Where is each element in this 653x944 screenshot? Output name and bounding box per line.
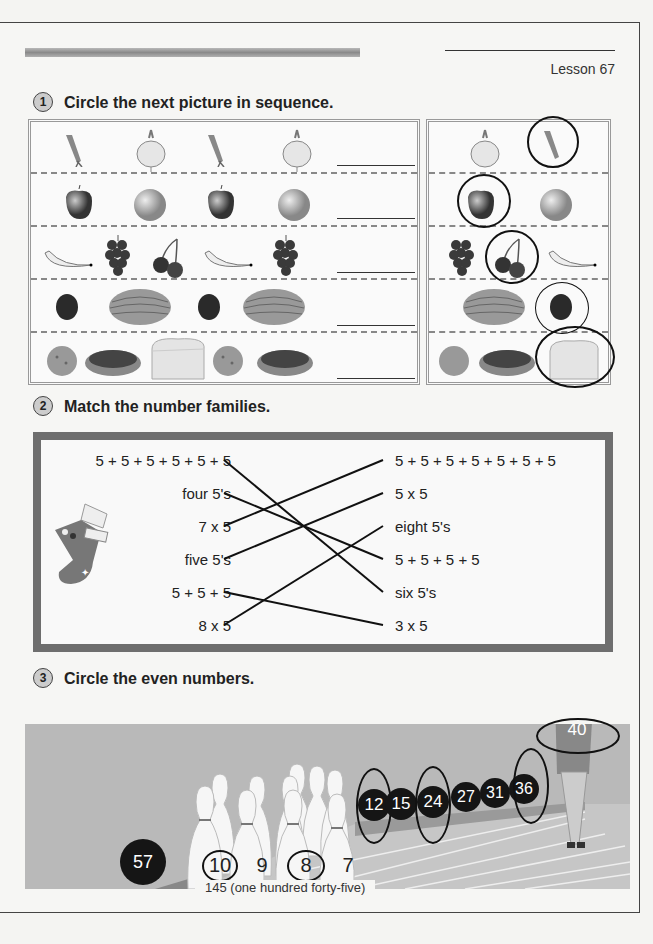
answer-line-3[interactable] [337, 272, 415, 273]
name-line [445, 50, 615, 51]
bowling-ball[interactable]: 27 [451, 782, 481, 812]
pin-number[interactable]: 7 [333, 854, 363, 877]
answer-line-5[interactable] [337, 378, 415, 379]
choices-box [426, 119, 611, 385]
banana-icon[interactable] [547, 247, 599, 275]
section-3-number: 3 [33, 668, 53, 688]
section-3-title: Circle the even numbers. [64, 670, 254, 688]
answer-circle [536, 718, 620, 754]
orange-icon[interactable] [537, 184, 575, 224]
apple-icon [203, 184, 239, 222]
answer-circle [202, 850, 238, 882]
stocking-icon: ✦ [51, 502, 111, 588]
plum-icon [53, 292, 81, 322]
bread-icon [147, 334, 209, 382]
cookie-icon [211, 344, 245, 378]
cookie-icon [45, 344, 79, 378]
grapes-icon [271, 232, 301, 282]
melon-icon [107, 287, 173, 327]
answer-line-2[interactable] [337, 218, 415, 219]
answer-circle [287, 850, 325, 882]
turnip-icon [131, 128, 171, 172]
section-2-number: 2 [33, 396, 53, 416]
orange-icon [131, 184, 169, 224]
orange-icon [275, 184, 313, 224]
donut-icon [255, 346, 315, 378]
carrot-icon [201, 132, 231, 168]
donut-icon [83, 346, 143, 378]
section-2-title: Match the number families. [64, 398, 270, 416]
pin-number[interactable]: 9 [247, 854, 277, 877]
turnip-icon[interactable] [465, 128, 505, 172]
answer-circle [535, 326, 615, 388]
turnip-icon [277, 128, 317, 172]
cookie-icon[interactable] [437, 344, 471, 378]
melon-icon[interactable] [461, 287, 527, 327]
answer-line-4[interactable] [337, 325, 415, 326]
match-lines [41, 440, 605, 644]
melon-icon [241, 287, 307, 327]
donut-icon[interactable] [477, 346, 537, 378]
answer-circle [415, 766, 451, 844]
page-number-label: 145 (one hundred forty-five) [195, 880, 375, 896]
answer-circle [457, 174, 511, 228]
lesson-label: Lesson 67 [550, 61, 615, 77]
answer-circle [485, 230, 539, 284]
section-1-title: Circle the next picture in sequence. [64, 94, 333, 112]
apple-icon [61, 184, 97, 222]
cherries-icon [149, 237, 189, 279]
section-1-number: 1 [33, 92, 53, 112]
grapes-icon [103, 232, 133, 282]
answer-line-1[interactable] [337, 165, 415, 166]
plum-icon [195, 292, 223, 322]
banana-icon [203, 247, 255, 275]
grapes-icon[interactable] [447, 232, 477, 282]
match-box: 5 + 5 + 5 + 5 + 5 + 5 four 5's 7 x 5 fiv… [33, 432, 613, 652]
carrot-icon [59, 132, 89, 168]
banana-icon [43, 247, 95, 275]
bowling-ball[interactable]: 15 [385, 788, 417, 820]
sequence-box [28, 119, 420, 385]
bowling-scene: 10 9 8 7 57 12 15 24 27 31 36 40 [25, 724, 630, 889]
title-bar-decoration [25, 48, 360, 57]
svg-text:✦: ✦ [81, 567, 89, 578]
answer-circle [527, 116, 579, 168]
bowling-ball[interactable]: 31 [480, 778, 510, 808]
bowling-ball[interactable]: 57 [120, 839, 166, 885]
